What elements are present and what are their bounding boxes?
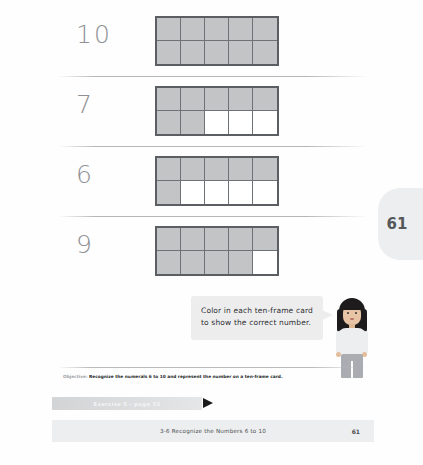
ten-frame-cell[interactable] — [205, 88, 229, 111]
exercise-row: 9 — [0, 218, 423, 288]
ten-frame-cell[interactable] — [157, 88, 181, 111]
footer-page-number: 61 — [352, 420, 360, 442]
ten-frame-cell[interactable] — [205, 228, 229, 251]
ten-frame-cell[interactable] — [253, 181, 277, 204]
arrow-right-icon — [203, 398, 213, 408]
ten-frame-cell[interactable] — [157, 158, 181, 181]
ten-frame-cell[interactable] — [229, 111, 253, 134]
ten-frame[interactable] — [155, 16, 279, 66]
ten-frame-cell[interactable] — [253, 251, 277, 274]
ten-frame-cell[interactable] — [181, 18, 205, 41]
instruction-line-2: to show the correct number. — [201, 317, 313, 329]
worksheet-page: 10 7 — [0, 0, 423, 465]
ten-frame-cell[interactable] — [157, 111, 181, 134]
ten-frame-cell[interactable] — [157, 18, 181, 41]
objective: Objective: Recognize the numerals 6 to 1… — [63, 374, 363, 380]
ten-frame-cell[interactable] — [157, 41, 181, 64]
eye-right-icon — [355, 312, 357, 314]
ten-frame-cell[interactable] — [229, 18, 253, 41]
ten-frame-cell[interactable] — [157, 228, 181, 251]
exercise-row: 10 — [0, 8, 423, 78]
ten-frame-cell[interactable] — [181, 228, 205, 251]
ten-frame-cell[interactable] — [253, 88, 277, 111]
row-numeral: 9 — [76, 232, 136, 257]
ten-frame[interactable] — [155, 86, 279, 136]
ten-frame-cell[interactable] — [157, 251, 181, 274]
instruction-callout: Color in each ten-frame card to show the… — [191, 296, 323, 340]
exercise-label: Exercise 5 - page 53 — [52, 397, 202, 410]
exercise-row: 6 — [0, 148, 423, 218]
footer-bar: 3-6 Recognize the Numbers 6 to 10 61 — [52, 420, 374, 442]
side-page-tab: 61 — [378, 188, 423, 260]
ten-frame-cell[interactable] — [253, 228, 277, 251]
ten-frame-cell[interactable] — [205, 18, 229, 41]
ten-frame-cell[interactable] — [205, 41, 229, 64]
ten-frame-cell[interactable] — [181, 181, 205, 204]
row-divider — [58, 216, 368, 217]
fringe-icon — [342, 302, 362, 310]
exercise-row: 7 — [0, 78, 423, 148]
ten-frame-cell[interactable] — [181, 88, 205, 111]
footer-text: 3-6 Recognize the Numbers 6 to 10 — [52, 420, 374, 442]
eye-left-icon — [347, 312, 349, 314]
objective-label: Objective: — [63, 374, 88, 379]
ten-frame-cell[interactable] — [229, 158, 253, 181]
row-numeral: 6 — [76, 162, 136, 187]
side-tab-number: 61 — [378, 188, 416, 260]
ten-frame-cell[interactable] — [181, 158, 205, 181]
ten-frame-cell[interactable] — [181, 251, 205, 274]
ten-frame-cell[interactable] — [229, 41, 253, 64]
row-divider — [58, 146, 368, 147]
exercise-bar[interactable]: Exercise 5 - page 53 — [52, 397, 202, 410]
ten-frame-cell[interactable] — [253, 158, 277, 181]
ten-frame-cell[interactable] — [205, 251, 229, 274]
ten-frame[interactable] — [155, 226, 279, 276]
ten-frame-cell[interactable] — [253, 18, 277, 41]
ten-frame-cell[interactable] — [157, 181, 181, 204]
ten-frame-cell[interactable] — [229, 181, 253, 204]
ten-frame-cell[interactable] — [205, 111, 229, 134]
ten-frame-cell[interactable] — [181, 111, 205, 134]
ten-frame[interactable] — [155, 156, 279, 206]
mouth-icon — [350, 318, 354, 320]
ten-frame-cell[interactable] — [205, 158, 229, 181]
ten-frame-cell[interactable] — [205, 181, 229, 204]
ten-frame-cell[interactable] — [253, 41, 277, 64]
objective-text: Recognize the numerals 6 to 10 and repre… — [89, 374, 283, 379]
row-divider — [58, 76, 368, 77]
row-numeral: 10 — [76, 22, 136, 47]
instruction-line-1: Color in each ten-frame card — [201, 305, 313, 317]
ten-frame-cell[interactable] — [253, 111, 277, 134]
ten-frame-cell[interactable] — [181, 41, 205, 64]
ten-frame-cell[interactable] — [229, 88, 253, 111]
row-numeral: 7 — [76, 92, 136, 117]
ten-frame-cell[interactable] — [229, 228, 253, 251]
ten-frame-cell[interactable] — [229, 251, 253, 274]
objective-divider — [58, 367, 368, 368]
